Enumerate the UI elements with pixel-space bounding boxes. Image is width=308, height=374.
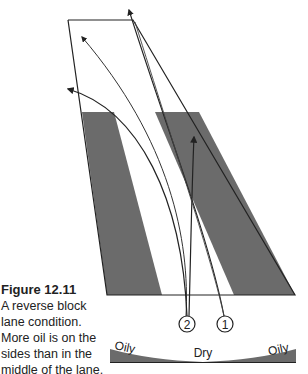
marker-2: 2 xyxy=(179,316,195,332)
figure-label: Figure 12.11 xyxy=(1,282,105,298)
right-oil-stripe xyxy=(155,112,295,295)
caption-line: More oil is on the xyxy=(1,331,96,345)
caption-line: sides than in the xyxy=(1,347,92,361)
marker-1: 1 xyxy=(217,316,233,332)
caption-line: lane condition. xyxy=(1,315,82,329)
dry-label: Dry xyxy=(194,346,213,360)
caption-line: A reverse block xyxy=(1,299,86,313)
marker-1-label: 1 xyxy=(222,318,229,332)
caption-line: middle of the lane. xyxy=(1,363,103,374)
figure-caption: Figure 12.11 A reverse block lane condit… xyxy=(1,282,105,374)
marker-2-label: 2 xyxy=(184,318,191,332)
